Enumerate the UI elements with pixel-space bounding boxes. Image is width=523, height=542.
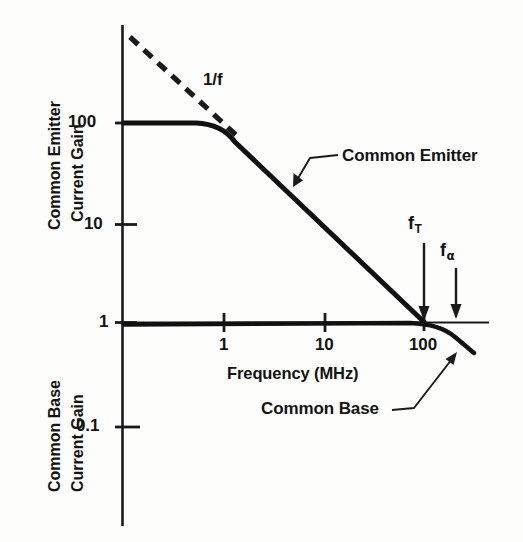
falpha-arrow xyxy=(451,268,462,319)
axes-group xyxy=(123,25,490,526)
xtick-label-10: 10 xyxy=(315,336,334,353)
common-base-label: Common Base xyxy=(261,400,379,417)
common-base-leader-line xyxy=(392,352,457,410)
x-axis-title: Frequency (MHz) xyxy=(227,365,358,382)
xtick-label-1: 1 xyxy=(219,336,228,353)
one-over-f-label: 1/f xyxy=(203,71,223,88)
ft-arrow xyxy=(419,243,430,321)
ft-label: fT xyxy=(408,214,421,232)
common-emitter-leader-line xyxy=(293,155,338,187)
y-axis-title-upper-line2: Current Gain xyxy=(70,124,86,222)
ytick-label-1: 1 xyxy=(99,313,108,330)
y-axis-title-lower-line2: Current Gain xyxy=(70,394,86,492)
ft-subscript: T xyxy=(414,222,421,236)
y-tick-marks xyxy=(115,123,140,427)
y-axis-title-lower-line1: Common Base xyxy=(47,380,63,492)
falpha-subscript: α xyxy=(446,249,454,263)
y-axis-title-upper-line1: Common Emitter xyxy=(47,101,63,230)
xtick-label-100: 100 xyxy=(409,336,437,353)
figure-container: 100 10 1 0.1 1 10 100 Frequency (MHz) Co… xyxy=(0,0,523,542)
falpha-label: fα xyxy=(440,241,454,259)
common-emitter-label: Common Emitter xyxy=(342,147,478,164)
ytick-label-10: 10 xyxy=(84,215,103,232)
